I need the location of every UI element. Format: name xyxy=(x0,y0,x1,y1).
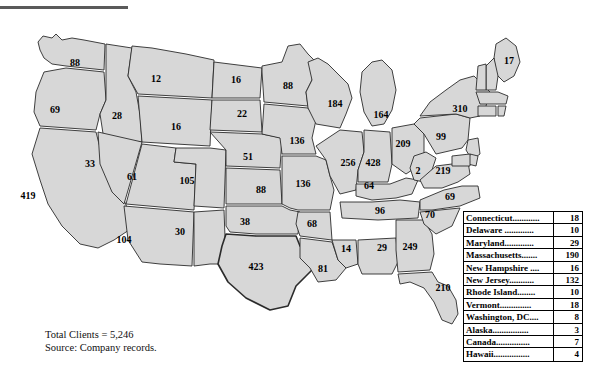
legend-row[interactable]: Connecticut............ 18 xyxy=(464,212,582,224)
state-value-mi: 164 xyxy=(374,109,389,120)
legend-state-value: 18 xyxy=(554,212,582,223)
state-value-id: 28 xyxy=(112,110,122,121)
legend-state-name: Alaska................ xyxy=(464,324,554,335)
footnote-total: Total Clients = 5,246 xyxy=(45,329,134,340)
state-value-ar: 68 xyxy=(307,218,317,229)
legend-state-value: 190 xyxy=(554,249,582,260)
state-value-co: 105 xyxy=(180,175,195,186)
legend-row[interactable]: Canada............... 7 xyxy=(464,336,582,348)
state-ri[interactable] xyxy=(498,106,506,116)
state-value-ok: 38 xyxy=(240,216,250,227)
state-value-va: 219 xyxy=(436,165,451,176)
legend-state-value: 10 xyxy=(554,224,582,235)
state-value-wa: 88 xyxy=(70,57,80,68)
legend-state-name: Vermont.............. xyxy=(464,299,554,310)
legend-state-name: Canada............... xyxy=(464,336,554,347)
state-in[interactable] xyxy=(358,130,392,182)
legend-state-value: 18 xyxy=(554,299,582,310)
state-shape-group xyxy=(32,34,520,324)
state-value-mt: 12 xyxy=(151,73,161,84)
legend-row[interactable]: Rhode Island........ 10 xyxy=(464,286,582,298)
legend-table: Connecticut............ 18 Delaware ....… xyxy=(463,211,583,362)
state-value-ny: 310 xyxy=(453,103,468,114)
state-value-ks: 88 xyxy=(256,184,266,195)
state-value-wi: 184 xyxy=(328,98,343,109)
state-value-ms: 14 xyxy=(341,243,351,254)
legend-state-name: Rhode Island........ xyxy=(464,286,554,297)
legend-row[interactable]: New Hampshire .... 16 xyxy=(464,262,582,274)
figure-footnote: Total Clients = 5,246Source: Company rec… xyxy=(45,328,157,354)
legend-row[interactable]: Hawaii................ 4 xyxy=(464,348,582,360)
legend-state-name: Washington, DC.... xyxy=(464,311,554,322)
state-value-sc: 70 xyxy=(425,209,435,220)
state-value-ia: 136 xyxy=(290,135,305,146)
legend-state-name: Hawaii................ xyxy=(464,348,554,360)
state-or[interactable] xyxy=(34,68,106,130)
state-value-al: 29 xyxy=(377,242,387,253)
legend-state-value: 7 xyxy=(554,336,582,347)
legend-row[interactable]: Maryland............. 29 xyxy=(464,237,582,249)
state-value-la: 81 xyxy=(318,263,328,274)
state-ma[interactable] xyxy=(476,92,508,104)
legend-state-name: New Jersey........... xyxy=(464,274,554,285)
state-ct[interactable] xyxy=(478,106,496,116)
state-value-wy: 16 xyxy=(171,121,181,132)
state-value-in: 428 xyxy=(366,157,381,168)
state-value-mn: 88 xyxy=(283,80,293,91)
legend-row[interactable]: Massachusetts....... 190 xyxy=(464,249,582,261)
infographic-page: 8869419283361104121610530162251883842388… xyxy=(0,0,595,378)
state-value-oh: 209 xyxy=(396,138,411,149)
legend-state-value: 8 xyxy=(554,311,582,322)
state-value-nc: 69 xyxy=(445,191,455,202)
state-mt[interactable] xyxy=(128,46,214,98)
legend-row[interactable]: Delaware ............. 10 xyxy=(464,224,582,236)
state-value-tx: 423 xyxy=(249,261,264,272)
state-wi[interactable] xyxy=(306,58,352,128)
state-value-tn: 96 xyxy=(375,205,385,216)
state-value-me: 17 xyxy=(504,55,514,66)
state-value-ky: 64 xyxy=(364,180,374,191)
state-value-fl: 210 xyxy=(436,282,451,293)
legend-state-value: 29 xyxy=(554,237,582,248)
legend-state-name: Delaware ............. xyxy=(464,224,554,235)
legend-state-value: 16 xyxy=(554,262,582,273)
state-value-il: 256 xyxy=(341,157,356,168)
legend-state-value: 3 xyxy=(554,324,582,335)
legend-state-name: Maryland............. xyxy=(464,237,554,248)
state-value-or: 69 xyxy=(50,104,60,115)
state-value-sd: 22 xyxy=(237,108,247,119)
legend-state-value: 10 xyxy=(554,286,582,297)
legend-row[interactable]: Alaska................ 3 xyxy=(464,324,582,336)
header-rule xyxy=(0,6,128,9)
legend-state-value: 4 xyxy=(554,348,582,360)
state-value-pa: 99 xyxy=(436,131,446,142)
state-value-az: 104 xyxy=(117,234,132,245)
state-value-wv: 2 xyxy=(416,165,421,176)
state-fl[interactable] xyxy=(398,272,458,324)
state-vt[interactable] xyxy=(476,64,486,90)
legend-row[interactable]: Washington, DC.... 8 xyxy=(464,311,582,323)
state-ks[interactable] xyxy=(226,168,282,204)
state-value-nd: 16 xyxy=(231,74,241,85)
state-value-nv: 33 xyxy=(85,158,95,169)
state-ok[interactable] xyxy=(226,206,300,234)
legend-row[interactable]: New Jersey........... 132 xyxy=(464,274,582,286)
legend-state-name: Massachusetts....... xyxy=(464,249,554,260)
state-value-ne: 51 xyxy=(243,151,253,162)
legend-state-name: New Hampshire .... xyxy=(464,262,554,273)
state-value-ut: 61 xyxy=(127,171,137,182)
legend-state-name: Connecticut............ xyxy=(464,212,554,223)
footnote-source: Source: Company records. xyxy=(45,342,157,353)
legend-state-value: 132 xyxy=(554,274,582,285)
state-value-ca: 419 xyxy=(21,190,36,201)
state-value-mo: 136 xyxy=(296,178,311,189)
legend-row[interactable]: Vermont.............. 18 xyxy=(464,299,582,311)
state-md[interactable] xyxy=(452,154,470,166)
state-sd[interactable] xyxy=(210,100,262,132)
state-value-ga: 249 xyxy=(403,241,418,252)
state-value-nm: 30 xyxy=(175,226,185,237)
